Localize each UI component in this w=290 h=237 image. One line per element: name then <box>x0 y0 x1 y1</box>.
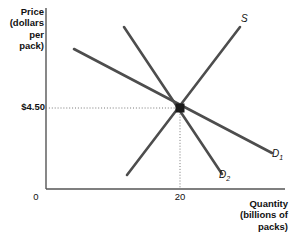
supply-curve <box>127 27 240 175</box>
x-axis-title: Quantity (billions of packs) <box>198 198 288 232</box>
supply-curve-label: S <box>241 13 248 24</box>
origin-label: 0 <box>26 191 46 202</box>
y-axis-title: Price (dollars per pack) <box>2 6 44 52</box>
supply-demand-chart: Price (dollars per pack) Quantity (billi… <box>0 0 290 237</box>
demand-curve-2 <box>124 27 222 174</box>
x-axis-tick-label-quantity: 20 <box>165 191 195 202</box>
equilibrium-point-marker <box>176 104 185 113</box>
supply-curve-label-text: S <box>241 13 248 24</box>
demand-curve-1-label-subscript: 1 <box>279 154 283 161</box>
demand-curve-1-label: D1 <box>272 148 283 161</box>
demand-curve-2-label-subscript: 2 <box>226 175 230 182</box>
y-axis-tick-label-price: $4.50 <box>0 101 45 112</box>
demand-curve-2-label: D2 <box>219 169 230 182</box>
